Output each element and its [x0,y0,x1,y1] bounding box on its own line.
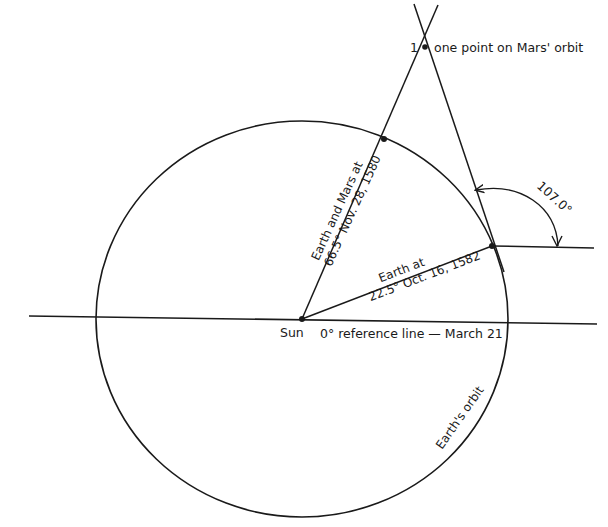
earth-1582-point [489,243,495,249]
earth-orbit-label: Earth's orbit [433,383,487,451]
mars-point-number: 1 [410,40,418,55]
reference-line-label: 0° reference line — March 21 [320,326,503,341]
sun-label: Sun [280,325,304,340]
sun-point [299,316,305,322]
angle-label: 107.0° [534,178,575,217]
earth-1580-point [381,136,387,142]
reference-line [29,316,597,324]
mars-orbit-diagram: 1 one point on Mars' orbit Earth and Mar… [0,0,608,527]
parallel-reference-line [492,246,594,248]
mars-point-1 [422,44,428,50]
mars-point-label: one point on Mars' orbit [434,40,583,55]
